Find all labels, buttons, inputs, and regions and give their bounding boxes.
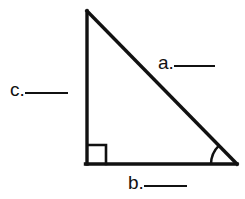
angle-arc-icon (211, 146, 219, 164)
right-triangle-diagram: a. c. b. (0, 0, 245, 199)
triangle-shape (0, 0, 245, 199)
right-angle-marker-icon (88, 145, 106, 164)
vertical-leg-answer-blank[interactable] (25, 92, 68, 94)
horizontal-leg-label-text: b. (128, 172, 144, 193)
vertical-leg-label-text: c. (10, 79, 25, 100)
hypotenuse-label: a. (158, 53, 215, 72)
hypotenuse-line (87, 11, 237, 164)
vertical-leg-label: c. (10, 80, 68, 99)
horizontal-leg-answer-blank[interactable] (144, 185, 187, 187)
horizontal-leg-label: b. (128, 173, 187, 192)
hypotenuse-label-text: a. (158, 52, 174, 73)
hypotenuse-answer-blank[interactable] (174, 65, 215, 67)
